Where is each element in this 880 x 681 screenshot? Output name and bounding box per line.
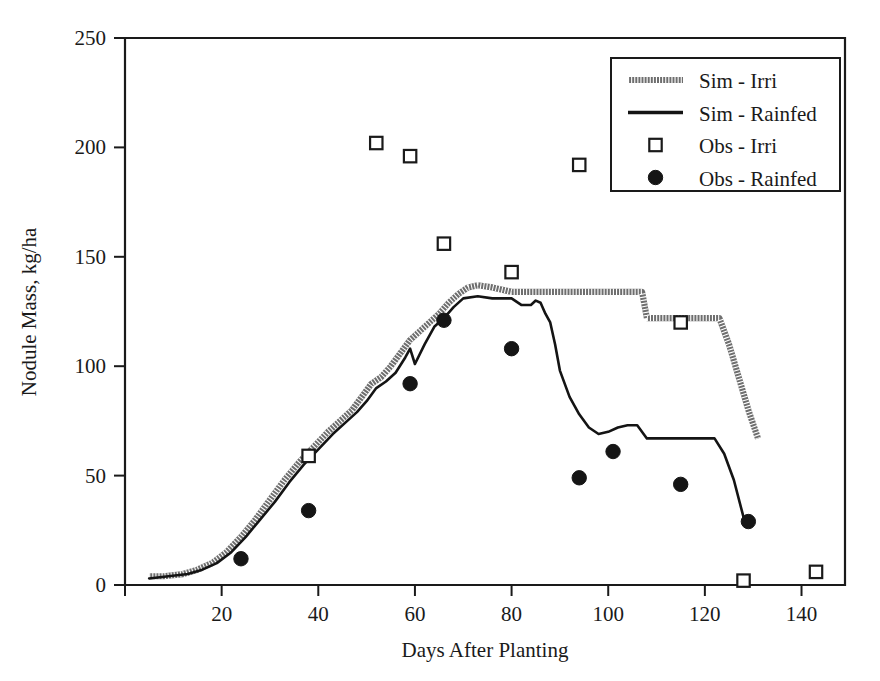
y-tick-label: 150: [75, 245, 107, 269]
marker-obs-irri: [573, 159, 585, 171]
x-tick-label: 140: [786, 602, 818, 626]
x-tick-label: 100: [592, 602, 624, 626]
marker-obs-irri: [675, 316, 687, 328]
marker-obs-rainfed: [606, 444, 620, 458]
marker-obs-irri: [810, 566, 822, 578]
x-tick-label: 60: [404, 602, 425, 626]
legend-swatch-obs-irri: [649, 139, 661, 151]
y-tick-label: 0: [96, 573, 107, 597]
legend-label: Obs - Rainfed: [699, 167, 817, 191]
legend-swatch-obs-rainfed: [648, 170, 662, 184]
y-tick-label: 100: [75, 354, 107, 378]
marker-obs-irri: [737, 574, 749, 586]
x-tick-label: 40: [308, 602, 329, 626]
marker-obs-irri: [370, 137, 382, 149]
y-tick-label: 250: [75, 26, 107, 50]
chart-canvas: 20406080100120140050100150200250 Sim - I…: [0, 0, 880, 681]
legend-label: Sim - Irri: [699, 69, 777, 93]
marker-obs-irri: [505, 266, 517, 278]
y-axis-title: Nodule Mass, kg/ha: [17, 227, 41, 396]
marker-obs-irri: [404, 150, 416, 162]
data-series: [149, 285, 758, 578]
legend-label: Obs - Irri: [699, 134, 777, 158]
marker-obs-rainfed: [234, 552, 248, 566]
marker-obs-rainfed: [741, 514, 755, 528]
y-tick-label: 50: [85, 464, 106, 488]
x-tick-label: 20: [211, 602, 232, 626]
marker-obs-rainfed: [437, 313, 451, 327]
legend-label: Sim - Rainfed: [699, 102, 817, 126]
marker-obs-rainfed: [504, 342, 518, 356]
chart-legend: Sim - IrriSim - RainfedObs - IrriObs - R…: [611, 58, 840, 191]
x-axis-title: Days After Planting: [402, 638, 569, 662]
nodule-mass-chart-figure: 20406080100120140050100150200250 Sim - I…: [0, 0, 880, 681]
x-tick-label: 80: [501, 602, 522, 626]
marker-obs-rainfed: [301, 503, 315, 517]
marker-obs-rainfed: [674, 477, 688, 491]
series-line-sim-irri: [149, 285, 758, 576]
y-tick-label: 200: [75, 135, 107, 159]
x-tick-label: 120: [689, 602, 721, 626]
marker-obs-rainfed: [572, 471, 586, 485]
marker-obs-irri: [302, 450, 314, 462]
marker-obs-irri: [438, 237, 450, 249]
marker-obs-rainfed: [403, 377, 417, 391]
